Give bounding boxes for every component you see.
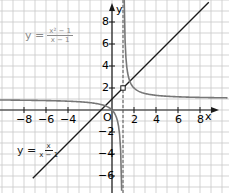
y-tick-label: −2 (98, 126, 114, 137)
eq2-fraction: x x − 1 (39, 142, 58, 159)
eq1-denominator: x − 1 (51, 36, 70, 44)
eq2-denominator: x − 1 (39, 151, 58, 159)
y-tick-label: 4 (102, 60, 109, 71)
y-tick-label: 2 (102, 82, 109, 93)
eq1-numerator: x² − 1 (47, 27, 73, 36)
y-tick-label: −4 (98, 148, 114, 159)
x-axis-label: x (205, 111, 212, 122)
x-tick-label: −6 (38, 114, 54, 125)
eq2-prefix: y = (17, 144, 36, 157)
y-axis-label: y (116, 4, 123, 15)
eq1-fraction: x² − 1 x − 1 (47, 27, 73, 44)
x-tick-label: 4 (153, 114, 160, 125)
y-tick-label: −6 (98, 170, 114, 181)
x-tick-label: −4 (60, 114, 76, 125)
equation-line-label: y = x² − 1 x − 1 (25, 27, 73, 44)
y-tick-label: 8 (102, 16, 109, 27)
eq2-numerator: x (45, 142, 53, 151)
y-tick-label: 6 (102, 38, 109, 49)
origin-label: O (103, 112, 112, 123)
eq1-prefix: y = (25, 29, 44, 42)
x-tick-label: 8 (197, 114, 204, 125)
equation-hyperbola-label: y = x x − 1 (17, 142, 58, 159)
x-tick-label: 2 (131, 114, 138, 125)
x-tick-label: 6 (175, 114, 182, 125)
x-tick-label: −8 (16, 114, 32, 125)
